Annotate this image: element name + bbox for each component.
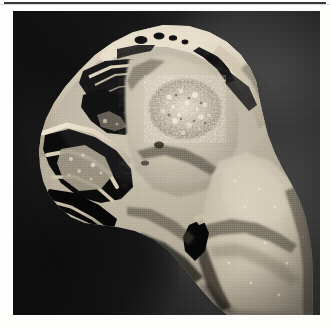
page-margin-top [0,5,330,11]
page-margin-left [0,5,13,328]
page-margin-bottom [0,315,330,328]
figure-page [0,0,330,328]
gross-pathology-photograph [13,11,320,315]
page-margin-right [320,5,330,328]
photo-vignette [13,11,320,315]
